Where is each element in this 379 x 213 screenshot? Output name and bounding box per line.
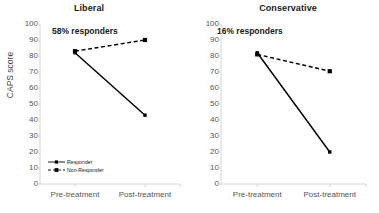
y-tick-label: 60: [210, 84, 219, 92]
chart-panel-conservative: Conservative 16% responders 100908070605…: [189, 0, 379, 213]
y-tick-label: 10: [29, 164, 38, 172]
panel-title: Liberal: [0, 3, 184, 13]
y-tick-label: 30: [210, 132, 219, 140]
y-tick-label: 50: [29, 100, 38, 108]
y-tick-label: 30: [29, 132, 38, 140]
chart-legend: Responder Non-Responder: [48, 158, 104, 174]
chart-figure: Liberal 58% responders CAPS score 100908…: [0, 0, 379, 213]
y-tick-label: 90: [210, 36, 219, 44]
y-tick-label: 90: [29, 36, 38, 44]
data-point-marker: [328, 69, 332, 73]
y-tick-label: 70: [29, 68, 38, 76]
data-point-marker: [143, 114, 146, 117]
y-tick-label: 20: [210, 148, 219, 156]
y-tick-label: 80: [29, 52, 38, 60]
x-axis-tick-labels: Pre-treatmentPost-treatment: [40, 190, 180, 204]
y-tick-label: 80: [210, 52, 219, 60]
data-point-marker: [255, 52, 259, 56]
y-tick-label: 40: [29, 116, 38, 124]
data-point-marker: [143, 38, 147, 42]
legend-label-responder: Responder: [67, 158, 92, 166]
x-axis-tick-labels: Pre-treatmentPost-treatment: [221, 190, 366, 204]
plot-area: [221, 24, 366, 184]
y-axis-tick-labels: 1009080706050403020100: [195, 24, 219, 184]
legend-item-responder: Responder: [48, 158, 104, 166]
data-point-marker: [73, 49, 77, 53]
y-tick-label: 100: [25, 20, 38, 28]
legend-item-non-responder: Non-Responder: [48, 166, 104, 174]
legend-label-non-responder: Non-Responder: [67, 166, 104, 174]
y-tick-label: 20: [29, 148, 38, 156]
y-tick-label: 40: [210, 116, 219, 124]
series-line-non-responder: [75, 40, 145, 51]
chart-panel-liberal: Liberal 58% responders CAPS score 100908…: [0, 0, 190, 213]
y-tick-label: 100: [206, 20, 219, 28]
series-line-responder: [75, 53, 145, 115]
series-line-responder: [257, 53, 330, 152]
y-tick-label: 70: [210, 68, 219, 76]
x-tick-label: Post-treatment: [304, 190, 356, 199]
y-axis-tick-labels: 1009080706050403020100: [14, 24, 38, 184]
y-tick-label: 60: [29, 84, 38, 92]
y-tick-label: 50: [210, 100, 219, 108]
x-tick-label: Post-treatment: [119, 190, 171, 199]
data-point-marker: [328, 150, 331, 153]
x-tick-label: Pre-treatment: [233, 190, 282, 199]
plot-svg: [221, 24, 366, 184]
x-tick-label: Pre-treatment: [51, 190, 100, 199]
panel-title: Conservative: [193, 3, 379, 13]
legend-key-solid-line-icon: [48, 158, 65, 166]
y-tick-label: 10: [210, 164, 219, 172]
legend-key-dashed-line-icon: [48, 166, 65, 174]
